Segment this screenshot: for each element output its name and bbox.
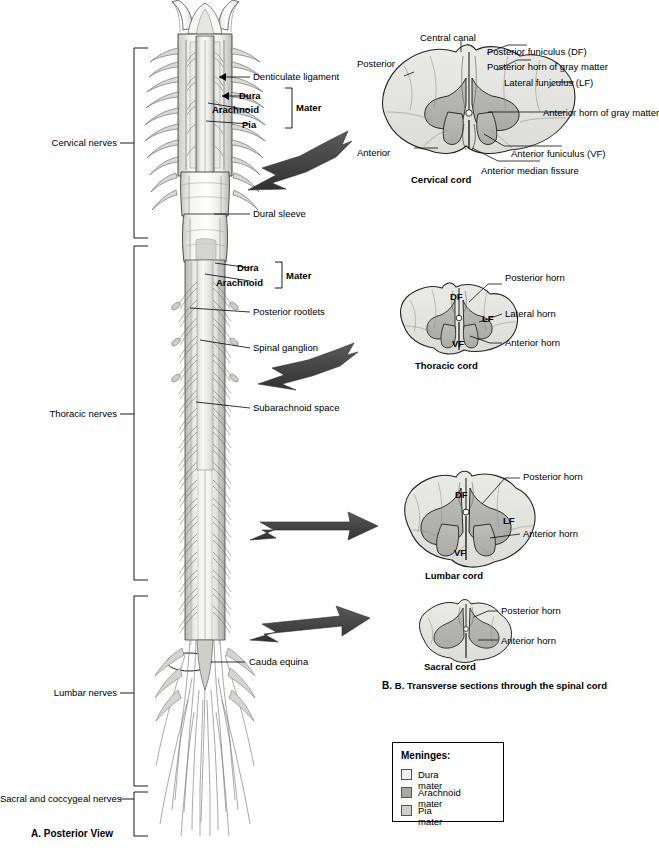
label-lumbar-anterior-horn: Anterior horn [523, 528, 578, 539]
label-arachnoid-upper: Arachnoid [212, 104, 259, 115]
label-anterior-horn-gray-matter: Anterior horn of gray matter [543, 107, 659, 118]
conus-medullaris [197, 640, 213, 690]
panel-a-caption: A. Posterior View [31, 828, 113, 839]
panel-b-text: B. Transverse sections through the spina… [395, 680, 607, 691]
arrow-to-lumbar-section [250, 512, 378, 540]
label-sacral-anterior-horn: Anterior horn [501, 635, 556, 646]
region-label-sacral-coccygeal-nerves: Sacral and coccygeal nerves [0, 793, 117, 804]
dural-tube-mid [181, 172, 230, 216]
label-dura-lower: Dura [237, 262, 259, 273]
region-label-lumbar-nerves: Lumbar nerves [4, 687, 117, 698]
label-cervical-posterior: Posterior [357, 58, 395, 69]
label-spinal-ganglion: Spinal ganglion [253, 342, 318, 353]
label-denticulate-ligament: Denticulate ligament [253, 71, 339, 82]
label-cervical-anterior: Anterior [357, 147, 390, 158]
region-label-thoracic-nerves: Thoracic nerves [4, 408, 117, 419]
mater-bracket-lower [275, 262, 282, 288]
label-central-canal: Central canal [420, 32, 476, 43]
dural-sleeve-region [183, 214, 228, 265]
thoracic-vf-label: VF [452, 338, 464, 349]
region-label-cervical-nerves: Cervical nerves [4, 137, 117, 148]
label-posterior-funiculus: Posterior funiculus (DF) [487, 46, 587, 57]
label-anterior-funiculus: Anterior funiculus (VF) [511, 148, 606, 159]
label-cauda-equina: Cauda equina [249, 656, 308, 667]
title-lumbar-cord: Lumbar cord [425, 570, 483, 581]
thoracolumbar-sac [185, 260, 225, 655]
label-thoracic-posterior-horn: Posterior horn [505, 272, 565, 283]
lumbar-lf-label: LF [503, 515, 515, 526]
sacral-cord-section [420, 600, 512, 663]
label-subarachnoid-space: Subarachnoid space [253, 402, 340, 413]
lumbar-cord-section: DF LF VF [405, 471, 535, 567]
medulla-top [172, 0, 239, 36]
region-brackets [120, 48, 148, 836]
label-dura-upper: Dura [239, 90, 261, 101]
thoracic-df-label: DF [450, 291, 463, 302]
legend-swatch-arachnoid [401, 787, 412, 798]
title-sacral-cord: Sacral cord [424, 661, 476, 672]
title-thoracic-cord: Thoracic cord [415, 360, 478, 371]
label-thoracic-lateral-horn: Lateral horn [505, 308, 556, 319]
label-pia: Pia [242, 119, 256, 130]
meninges-legend: Meninges: Dura mater Arachnoid mater Pia… [392, 742, 504, 822]
panel-b-letter: B. [382, 680, 392, 691]
cervical-nerves-left [145, 48, 178, 210]
spinal-cord-figure: DF LF VF [0, 0, 659, 851]
lumbar-df-label: DF [455, 489, 468, 500]
mater-bracket-upper [285, 88, 292, 128]
title-cervical-cord: Cervical cord [411, 174, 471, 185]
label-thoracic-anterior-horn: Anterior horn [505, 337, 560, 348]
panel-b-caption: B. B. Transverse sections through the sp… [382, 680, 607, 691]
arrow-to-sacral-section [250, 606, 370, 642]
label-sacral-posterior-horn: Posterior horn [501, 605, 561, 616]
legend-swatch-pia [401, 805, 412, 816]
thoracic-lf-label: LF [482, 313, 494, 324]
label-anterior-median-fissure: Anterior median fissure [481, 165, 579, 176]
figure-canvas: DF LF VF [0, 0, 659, 851]
legend-swatch-dura [401, 769, 412, 780]
label-lumbar-posterior-horn: Posterior horn [523, 471, 583, 482]
label-dural-sleeve: Dural sleeve [253, 208, 306, 219]
label-mater-upper: Mater [296, 102, 321, 113]
label-posterior-horn-gray-matter: Posterior horn of gray matter [487, 61, 608, 72]
legend-label-pia: Pia mater [418, 805, 442, 827]
label-lateral-funiculus: Lateral funiculus (LF) [504, 77, 593, 88]
lumbar-vf-label: VF [454, 547, 466, 558]
legend-title: Meninges: [401, 750, 450, 761]
label-posterior-rootlets: Posterior rootlets [253, 306, 325, 317]
label-arachnoid-lower: Arachnoid [216, 277, 263, 288]
label-mater-lower: Mater [286, 270, 311, 281]
